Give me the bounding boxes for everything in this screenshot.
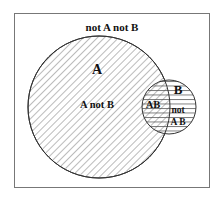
set-b-name: B bbox=[174, 82, 183, 97]
set-b-only-label-line2: A B bbox=[170, 117, 186, 127]
outside-label: not A not B bbox=[86, 21, 140, 33]
set-a-only-label: A not B bbox=[80, 99, 114, 110]
intersection-label: AB bbox=[146, 99, 161, 110]
set-a-name: A bbox=[92, 62, 103, 77]
set-b-only-label-line1: not bbox=[171, 105, 185, 115]
venn-diagram: not A not B A A not B AB B not A B bbox=[0, 0, 220, 199]
